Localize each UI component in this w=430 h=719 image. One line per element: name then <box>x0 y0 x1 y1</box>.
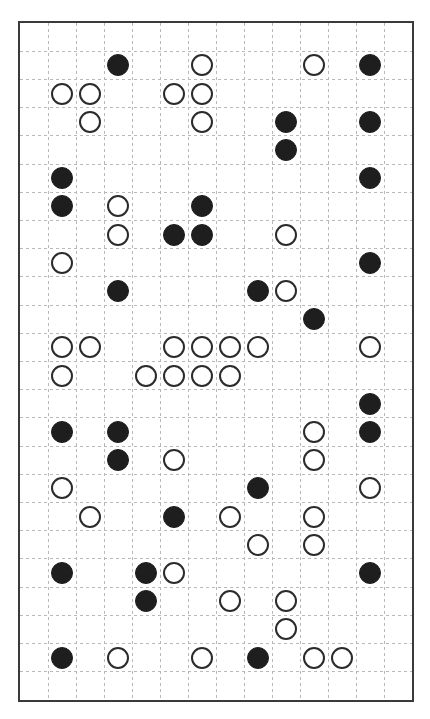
stone-white[interactable] <box>303 54 325 76</box>
stone-white[interactable] <box>359 477 381 499</box>
stone-black[interactable] <box>359 421 381 443</box>
stone-white[interactable] <box>303 449 325 471</box>
stone-black[interactable] <box>359 54 381 76</box>
stone-white[interactable] <box>135 365 157 387</box>
stone-white[interactable] <box>275 590 297 612</box>
dashed-grid-board[interactable] <box>18 21 414 702</box>
stone-white[interactable] <box>219 336 241 358</box>
stone-white[interactable] <box>51 477 73 499</box>
stone-black[interactable] <box>359 562 381 584</box>
stone-white[interactable] <box>163 83 185 105</box>
stone-white[interactable] <box>303 534 325 556</box>
stone-white[interactable] <box>191 83 213 105</box>
stone-black[interactable] <box>275 139 297 161</box>
stone-black[interactable] <box>247 477 269 499</box>
stone-black[interactable] <box>107 421 129 443</box>
stone-white[interactable] <box>303 421 325 443</box>
stone-white[interactable] <box>247 534 269 556</box>
stone-white[interactable] <box>331 647 353 669</box>
stone-white[interactable] <box>79 506 101 528</box>
stone-black[interactable] <box>191 224 213 246</box>
stone-white[interactable] <box>163 365 185 387</box>
stone-black[interactable] <box>303 308 325 330</box>
stone-white[interactable] <box>51 252 73 274</box>
stone-black[interactable] <box>51 195 73 217</box>
stone-black[interactable] <box>359 167 381 189</box>
stone-white[interactable] <box>51 336 73 358</box>
stone-white[interactable] <box>107 647 129 669</box>
stone-white[interactable] <box>191 111 213 133</box>
stone-white[interactable] <box>219 365 241 387</box>
stone-white[interactable] <box>219 506 241 528</box>
stone-white[interactable] <box>303 647 325 669</box>
stone-black[interactable] <box>107 449 129 471</box>
stone-black[interactable] <box>51 421 73 443</box>
stone-white[interactable] <box>275 618 297 640</box>
stone-white[interactable] <box>191 647 213 669</box>
stone-white[interactable] <box>191 54 213 76</box>
stone-white[interactable] <box>191 336 213 358</box>
stone-white[interactable] <box>107 195 129 217</box>
stone-black[interactable] <box>191 195 213 217</box>
stone-white[interactable] <box>163 336 185 358</box>
stone-white[interactable] <box>191 365 213 387</box>
screenshot-canvas <box>0 0 430 719</box>
stone-black[interactable] <box>51 647 73 669</box>
stone-white[interactable] <box>51 365 73 387</box>
stone-white[interactable] <box>275 280 297 302</box>
stone-white[interactable] <box>275 224 297 246</box>
stone-black[interactable] <box>107 54 129 76</box>
stone-white[interactable] <box>79 336 101 358</box>
stone-black[interactable] <box>51 562 73 584</box>
stone-white[interactable] <box>79 111 101 133</box>
stone-white[interactable] <box>247 336 269 358</box>
stone-white[interactable] <box>79 83 101 105</box>
stone-white[interactable] <box>359 336 381 358</box>
stone-black[interactable] <box>51 167 73 189</box>
stone-white[interactable] <box>51 83 73 105</box>
stone-black[interactable] <box>247 647 269 669</box>
stone-black[interactable] <box>247 280 269 302</box>
stone-black[interactable] <box>107 280 129 302</box>
stone-white[interactable] <box>163 449 185 471</box>
stone-black[interactable] <box>135 562 157 584</box>
stone-black[interactable] <box>359 393 381 415</box>
stone-black[interactable] <box>163 506 185 528</box>
stone-white[interactable] <box>303 506 325 528</box>
stone-white[interactable] <box>163 562 185 584</box>
stone-white[interactable] <box>219 590 241 612</box>
stone-black[interactable] <box>359 252 381 274</box>
stone-black[interactable] <box>135 590 157 612</box>
stone-black[interactable] <box>163 224 185 246</box>
stone-black[interactable] <box>275 111 297 133</box>
stone-layer[interactable] <box>20 23 412 700</box>
stone-white[interactable] <box>107 224 129 246</box>
stone-black[interactable] <box>359 111 381 133</box>
